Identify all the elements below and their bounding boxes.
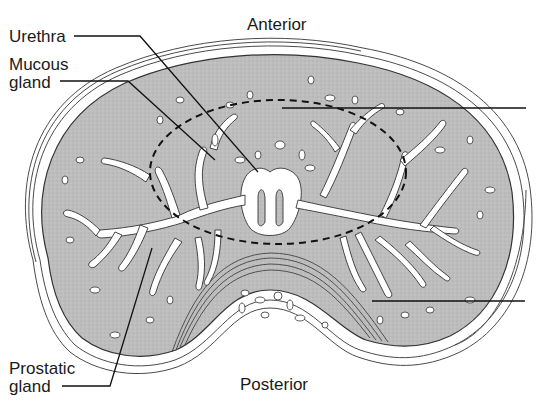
label-anterior: Anterior — [247, 15, 307, 34]
label-mucous-gland-line1: Mucous — [9, 55, 69, 74]
prostate-cross-section-diagram — [0, 0, 541, 402]
label-urethra: Urethra — [9, 27, 66, 46]
label-prostatic-gland-line2: gland — [9, 377, 51, 396]
label-prostatic-gland-line1: Prostatic — [9, 359, 75, 378]
label-posterior: Posterior — [240, 375, 308, 394]
label-mucous-gland-line2: gland — [9, 73, 51, 92]
